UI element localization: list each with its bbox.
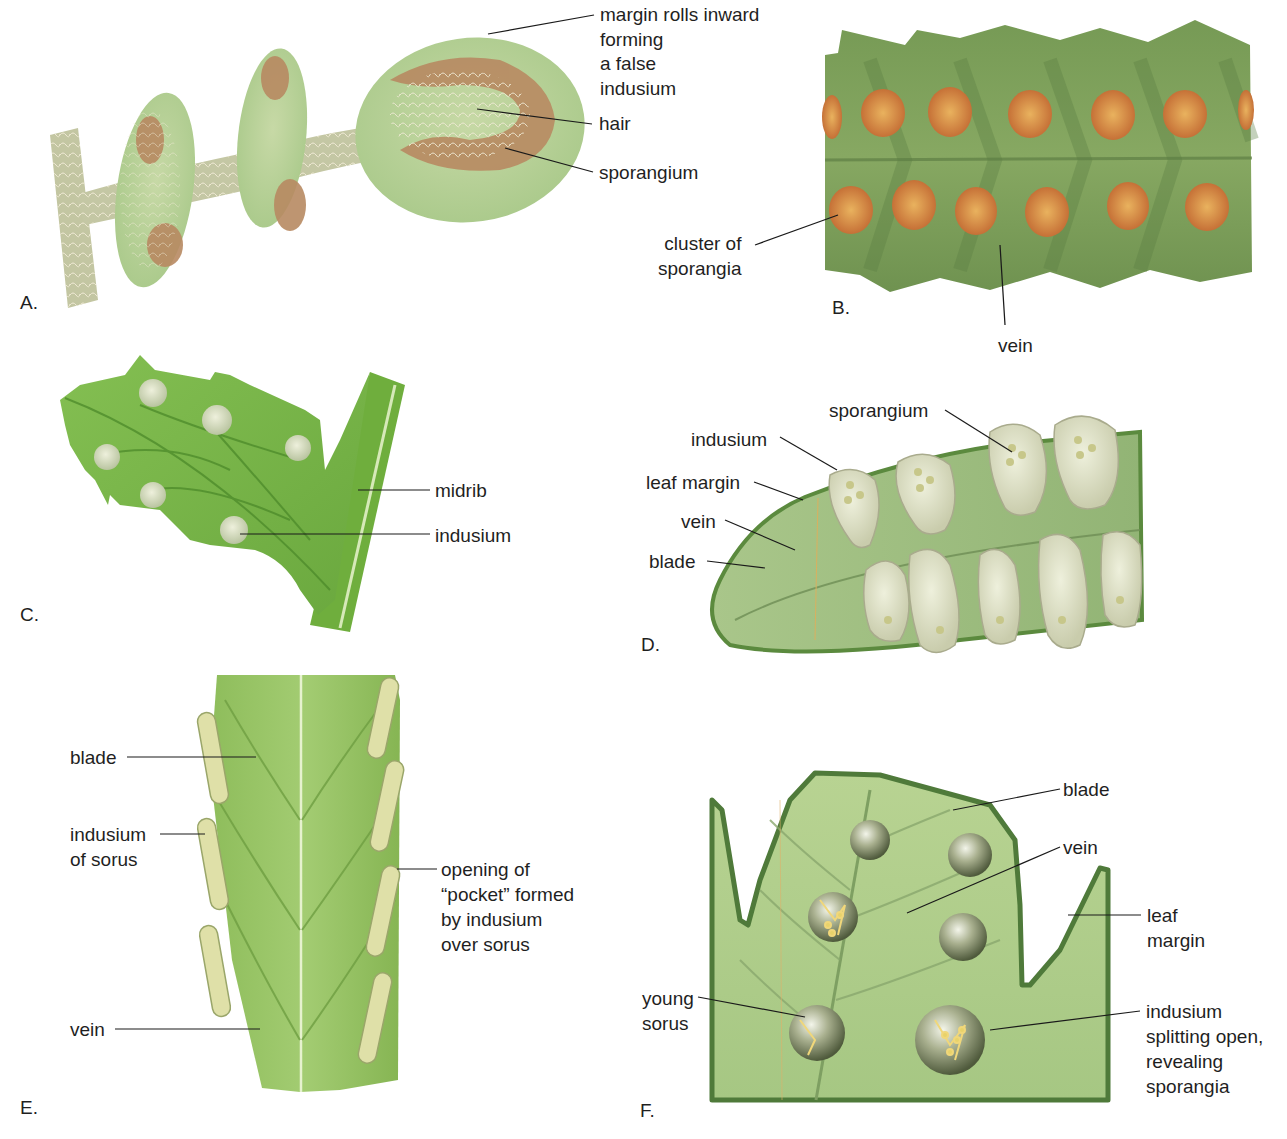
- label-f-blade: blade: [1063, 777, 1110, 802]
- label-c-indusium: indusium: [435, 523, 511, 548]
- panel-d-letter: D.: [641, 634, 660, 656]
- panel-d-illustration: [712, 416, 1142, 652]
- panel-f-letter: F.: [640, 1100, 655, 1122]
- label-b-vein: vein: [998, 333, 1033, 358]
- label-f-leaf-margin: leaf margin: [1147, 903, 1205, 953]
- label-a-margin-false-indusium: margin rolls inward forming a false indu…: [600, 3, 759, 101]
- label-e-opening-of-pocket: opening of “pocket” formed by indusium o…: [441, 857, 574, 957]
- fern-sori-figure: A. margin rolls inward forming a false i…: [0, 0, 1287, 1139]
- label-e-indusium-of-sorus: indusium of sorus: [70, 822, 146, 872]
- label-c-midrib: midrib: [435, 478, 487, 503]
- label-a-sporangium: sporangium: [599, 160, 698, 185]
- panel-b-illustration: [822, 20, 1254, 292]
- panel-c-letter: C.: [20, 604, 39, 626]
- label-a-hair: hair: [599, 111, 631, 136]
- panel-e-letter: E.: [20, 1097, 38, 1119]
- label-b-cluster-of-sporangia: cluster of sporangia: [658, 231, 741, 281]
- panel-a-letter: A.: [20, 292, 38, 314]
- label-d-indusium: indusium: [691, 427, 767, 452]
- label-f-young-sorus: young sorus: [642, 986, 694, 1036]
- label-d-vein: vein: [681, 509, 716, 534]
- label-e-vein: vein: [70, 1017, 105, 1042]
- panel-f-illustration: [712, 773, 1108, 1100]
- label-d-blade: blade: [649, 549, 696, 574]
- label-d-leaf-margin: leaf margin: [646, 470, 740, 495]
- label-e-blade: blade: [70, 745, 117, 770]
- panel-c-illustration: [60, 355, 405, 632]
- label-d-sporangium: sporangium: [829, 398, 928, 423]
- panel-a-illustration: [50, 23, 597, 308]
- label-f-vein: vein: [1063, 835, 1098, 860]
- label-f-indusium-splitting: indusium splitting open, revealing spora…: [1146, 999, 1263, 1099]
- panel-b-letter: B.: [832, 297, 850, 319]
